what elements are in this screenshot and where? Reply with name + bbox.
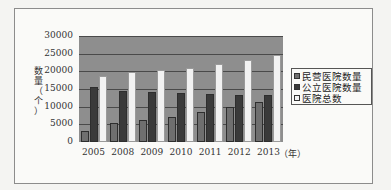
y-axis-label-char: ） [33, 106, 43, 116]
y-tick-label: 5000 [50, 119, 73, 128]
plot-area [79, 36, 283, 142]
legend-swatch-icon [294, 95, 300, 101]
bar-total [244, 60, 252, 142]
bar-public [90, 87, 98, 142]
x-tick-label: 2011 [195, 147, 225, 157]
y-axis-label-char: 个 [33, 96, 43, 106]
x-axis-unit: （年） [279, 147, 306, 160]
y-tick-label: 10000 [44, 102, 73, 111]
legend-label: 医院总数 [302, 91, 342, 105]
x-tick-label: 2009 [137, 147, 167, 157]
bar-private [168, 117, 176, 142]
y-tick-label: 0 [67, 137, 73, 146]
gridline [79, 71, 283, 72]
gridline [79, 54, 283, 55]
y-axis-label-char: 数 [33, 66, 43, 76]
bar-public [206, 94, 214, 142]
y-tick-label: 15000 [44, 84, 73, 93]
x-tick-label: 2012 [224, 147, 254, 157]
legend-swatch-icon [294, 84, 300, 90]
bar-public [148, 92, 156, 142]
legend-item: 医院总数 [294, 92, 369, 103]
y-tick-label: 30000 [44, 31, 73, 40]
bar-private [81, 131, 89, 142]
y-tick-label: 20000 [44, 66, 73, 75]
bar-private [139, 120, 147, 142]
gridline [79, 36, 283, 37]
bar-total [157, 70, 165, 142]
bar-private [197, 112, 205, 142]
x-tick-label: 2005 [79, 147, 109, 157]
bar-private [110, 123, 118, 142]
bar-public [235, 95, 243, 142]
bar-private [255, 102, 263, 142]
bar-public [264, 95, 272, 142]
legend: 民营医院数量公立医院数量医院总数 [291, 68, 372, 105]
legend-swatch-icon [294, 73, 300, 79]
gridline [79, 89, 283, 90]
y-tick-label: 25000 [44, 49, 73, 58]
y-axis-label-char: 量 [33, 76, 43, 86]
bar-total [186, 68, 194, 142]
bar-total [215, 64, 223, 142]
bar-total [128, 72, 136, 142]
y-axis-label-char: （ [33, 86, 43, 96]
y-axis-label: 数量（个） [33, 66, 43, 116]
x-tick-label: 2010 [166, 147, 196, 157]
bar-private [226, 107, 234, 142]
bar-total [273, 55, 281, 142]
bar-total [99, 76, 107, 142]
bar-public [119, 91, 127, 142]
x-tick-label: 2008 [108, 147, 138, 157]
bar-public [177, 93, 185, 142]
